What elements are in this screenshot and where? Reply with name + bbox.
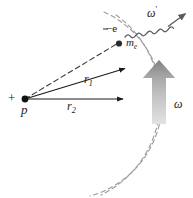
electron-radius-dashed-line [25, 42, 120, 99]
r1-vector-arrow [25, 69, 125, 100]
electron-mass-label: me [126, 37, 137, 51]
r1-label: r1 [84, 73, 93, 89]
diagram-canvas [0, 0, 193, 198]
angular-velocity-label: ω [174, 98, 182, 110]
photon-frequency-label: ω′ [147, 6, 157, 19]
electron-point [116, 40, 122, 46]
electron-charge-label: −e [106, 23, 117, 34]
electron-mass-symbol: m [126, 36, 134, 48]
electron-mass-subscript: e [134, 42, 137, 51]
bremsstrahlung-radiation-diagram: + p r1 r2 −e me ω ω′ [0, 0, 193, 198]
photon-frequency-prime: ′ [155, 5, 157, 14]
r2-label: r2 [67, 100, 76, 116]
r1-subscript: 1 [89, 79, 93, 88]
r2-subscript: 2 [72, 106, 76, 115]
omega-angular-velocity-arrow [143, 60, 175, 124]
proton-label: p [21, 103, 28, 116]
proton-charge-label: + [8, 91, 15, 104]
